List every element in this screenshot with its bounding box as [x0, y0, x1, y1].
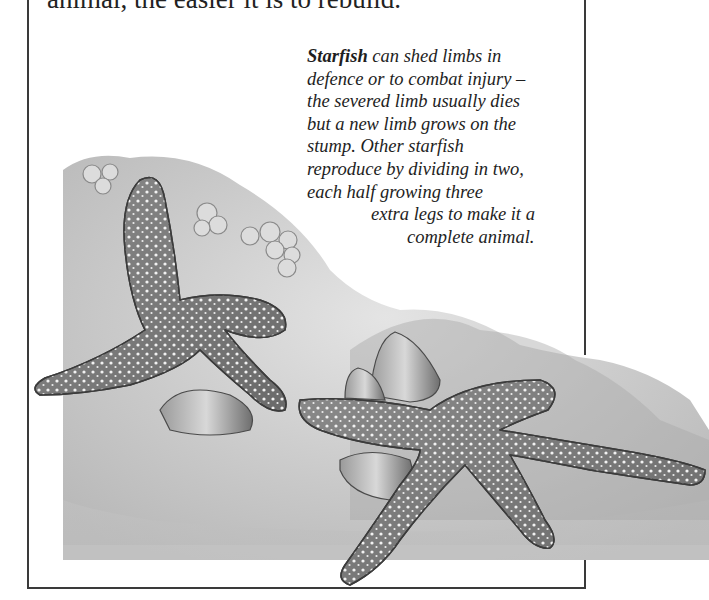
caption-line-2: defence or to combat injury –: [307, 68, 577, 91]
page-frame-left-border: [27, 0, 29, 589]
caption-line-7: each half growing three: [307, 181, 577, 204]
page-frame-bottom-border: [27, 587, 586, 589]
caption-lead-bold: Starfish: [307, 46, 368, 66]
caption-line-8: extra legs to make it a: [307, 203, 577, 226]
starfish-right: [299, 380, 705, 585]
barnacles: [83, 164, 300, 277]
starfish-caption: Starfish can shed limbs in defence or to…: [307, 45, 577, 248]
caption-line-3: the severed limb usually dies: [307, 90, 577, 113]
page-frame-right-border-lower: [584, 560, 586, 589]
caption-line-5: stump. Other starfish: [307, 135, 577, 158]
body-text-fragment: animal, the easier it is to rebuild.: [47, 0, 401, 14]
caption-line-6: reproduce by dividing in two,: [307, 158, 577, 181]
caption-line-9: complete animal.: [307, 226, 577, 249]
starfish-left: [35, 178, 286, 412]
caption-line-4: but a new limb grows on the: [307, 113, 577, 136]
mussel-shells: [160, 332, 440, 500]
page-frame-right-border: [584, 0, 586, 355]
caption-line-1: Starfish can shed limbs in: [307, 45, 577, 68]
